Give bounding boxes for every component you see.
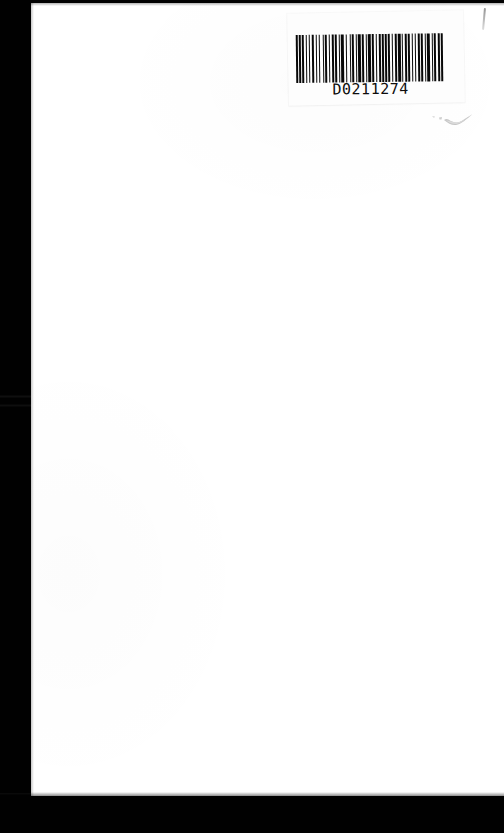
scanner-backdrop-bottom — [0, 793, 504, 833]
gray-smudge-mark — [430, 109, 476, 129]
barcode-space — [443, 33, 445, 81]
scanned-page-canvas: D0211274 — [0, 0, 504, 833]
sheet-edge-top — [31, 3, 504, 6]
pencil-tick-mark — [482, 8, 486, 30]
barcode-bars — [296, 33, 445, 83]
barcode-number-text: D0211274 — [297, 79, 445, 98]
paper-sheet: D0211274 — [31, 3, 504, 796]
scanner-backdrop-left — [0, 0, 34, 833]
sheet-edge-left — [31, 3, 34, 796]
paper-texture — [31, 3, 504, 796]
barcode-label: D0211274 — [287, 10, 465, 105]
sheet-edge-bottom — [31, 792, 504, 796]
